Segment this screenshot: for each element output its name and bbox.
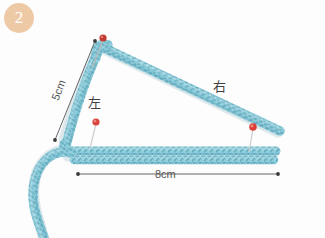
side-label-right: 右	[213, 76, 226, 95]
dimension-8cm	[76, 172, 280, 176]
cord-right-diagonal	[100, 43, 280, 134]
side-label-left: 左	[88, 92, 101, 111]
measurement-label-horizontal: 8cm	[155, 168, 176, 180]
cord-left-loop	[31, 151, 73, 238]
middle-pin	[90, 118, 100, 148]
cord-illustration	[0, 0, 325, 238]
cord-bottom-upper	[70, 149, 276, 155]
cord-bottom-lower	[74, 158, 274, 163]
step-number-badge: 2	[4, 3, 34, 33]
diagram-canvas: 2 5cm 8cm 左 右	[0, 0, 325, 238]
